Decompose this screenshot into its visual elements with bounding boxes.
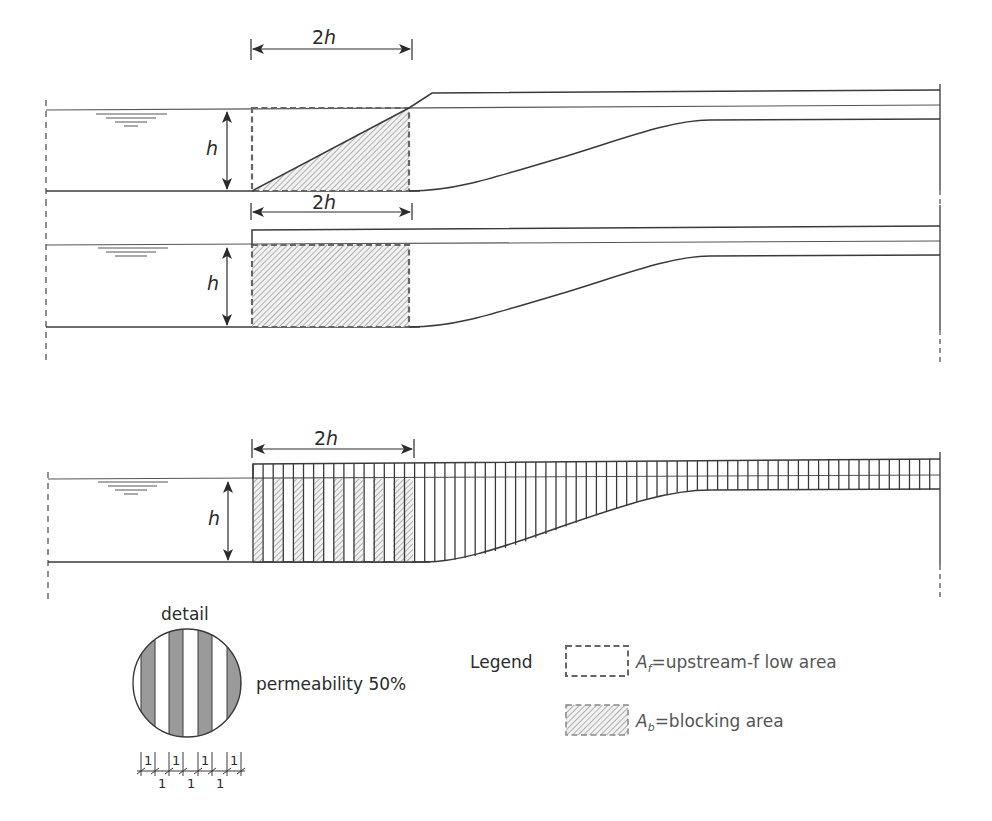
legend-title: Legend — [470, 652, 532, 672]
svg-text:1: 1 — [158, 776, 166, 791]
legend-item-flow-area: Af=upstream-f low area — [635, 652, 837, 675]
water-level-icon — [98, 482, 168, 494]
legend-item-blocking-area: Ab=blocking area — [635, 711, 784, 734]
legend-swatch-flow-area — [566, 646, 628, 676]
detail-scale-bar — [137, 752, 245, 776]
detail-scale-labels: 1 1 1 1 1 1 1 — [144, 753, 238, 791]
downstream-bed-curve — [409, 119, 940, 191]
detail-title: detail — [161, 604, 209, 624]
slat-lines — [253, 459, 930, 562]
svg-text:1: 1 — [201, 753, 209, 768]
svg-text:1: 1 — [216, 776, 224, 791]
height-label: h — [207, 272, 219, 294]
downstream-bed-curve — [409, 255, 940, 327]
width-label: 2h — [314, 427, 338, 449]
svg-text:1: 1 — [144, 753, 152, 768]
legend: Legend Af=upstream-f low area Ab=blockin… — [470, 646, 837, 735]
svg-text:1: 1 — [187, 776, 195, 791]
width-label: 2h — [312, 26, 336, 48]
water-level-icon — [98, 248, 168, 256]
panel-sloped-block: h 2h — [46, 26, 940, 205]
height-label: h — [208, 507, 220, 529]
detail-view: detail — [133, 604, 406, 791]
height-label: h — [206, 137, 218, 159]
permeability-label: permeability 50% — [256, 674, 406, 694]
svg-text:1: 1 — [230, 753, 238, 768]
svg-text:1: 1 — [172, 753, 180, 768]
water-surface — [46, 105, 940, 110]
panel-permeable-block: h 2h — [48, 427, 940, 600]
flow-blockage-diagram: h 2h h 2h — [0, 0, 992, 821]
water-surface — [48, 475, 940, 479]
blocking-area-rectangle — [252, 245, 409, 327]
width-label: 2h — [312, 191, 336, 213]
panel-rectangular-block: h 2h — [46, 191, 940, 365]
legend-swatch-blocking-area — [566, 705, 628, 735]
water-level-icon — [96, 114, 167, 126]
water-surface — [46, 241, 940, 245]
blocking-slats — [253, 479, 413, 562]
